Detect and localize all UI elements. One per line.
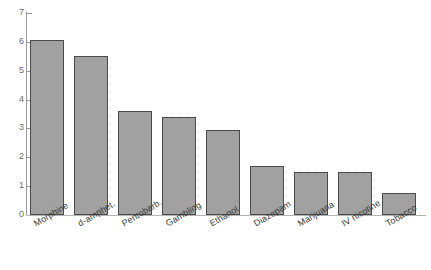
bar-d-amphet [74,56,108,215]
bars-group [0,0,431,215]
bar-chart-figure: 01234567 Morphined-amphet.Pentobarb.Gamb… [0,0,431,270]
bar-morphine [30,40,64,215]
bar-gambling [162,117,196,215]
bar-pentobarb [118,111,152,215]
x-axis-category-labels: Morphined-amphet.Pentobarb.GamblingEthan… [0,216,431,270]
bar-ethanol [206,130,240,215]
